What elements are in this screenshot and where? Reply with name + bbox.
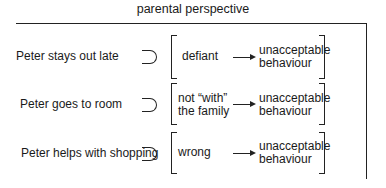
diagram-title: parental perspective xyxy=(0,2,386,16)
header-divider xyxy=(16,23,367,24)
interpretation-text: wrong xyxy=(178,146,211,159)
left-bracket xyxy=(171,35,177,79)
right-arrow-icon xyxy=(233,104,253,105)
right-arrow-icon xyxy=(233,153,253,154)
event-label: Peter stays out late xyxy=(16,49,119,63)
result-line-2: behaviour xyxy=(259,57,312,70)
event-label: Peter helps with shopping xyxy=(21,146,158,160)
right-border xyxy=(366,23,367,179)
right-bracket xyxy=(319,35,325,79)
right-bracket xyxy=(319,132,325,174)
left-bracket xyxy=(171,83,177,125)
subset-icon xyxy=(142,50,157,64)
right-arrow-icon xyxy=(233,57,253,58)
left-bracket xyxy=(171,132,177,174)
subset-icon xyxy=(142,147,157,161)
result-line-2: behaviour xyxy=(259,153,312,166)
right-bracket xyxy=(319,83,325,125)
interpretation-text-line-2: the family xyxy=(178,105,229,118)
event-label: Peter goes to room xyxy=(20,97,122,111)
interpretation-text: defiant xyxy=(182,50,218,63)
subset-icon xyxy=(142,98,157,112)
result-line-2: behaviour xyxy=(259,105,312,118)
